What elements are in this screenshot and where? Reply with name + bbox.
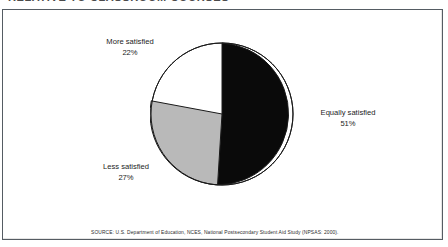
pie-label-more-satisfied: More satisfied 22% [87,37,173,58]
pie-chart-svg [150,42,294,186]
source-note: SOURCE: U.S. Department of Education, NC… [91,229,339,236]
figure-frame: More satisfied 22% Equally satisfied 51%… [2,9,443,240]
pie-label-equally-satisfied: Equally satisfied 51% [301,108,395,129]
cut-off-title-text: RELATIVE TO CLASSROOM COURSES [8,0,229,3]
pie-chart [150,42,294,186]
pie-label-less-satisfied-value: 27% [83,173,169,184]
pie-label-more-satisfied-value: 22% [87,48,173,59]
cut-off-title-fragment: RELATIVE TO CLASSROOM COURSES [0,0,448,6]
pie-label-equally-satisfied-name: Equally satisfied [301,108,395,119]
pie-label-less-satisfied-name: Less satisfied [83,162,169,173]
pie-label-equally-satisfied-value: 51% [301,119,395,130]
pie-label-less-satisfied: Less satisfied 27% [83,162,169,183]
pie-label-more-satisfied-name: More satisfied [87,37,173,48]
pie-slice-equally-satisfied [218,43,289,185]
